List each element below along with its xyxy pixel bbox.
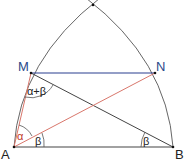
label-m: M [18,59,29,74]
label-b: B [175,147,184,162]
label-beta-a: β [35,135,41,147]
geometry-diagram: A B M N α β β α+β [0,0,184,162]
segment-mb [31,73,173,147]
point-m [30,72,33,75]
point-a [13,146,16,149]
label-alpha-plus-beta: α+β [27,85,46,97]
point-b [172,146,175,149]
angle-arc-beta-a [42,133,44,147]
label-alpha: α [17,130,24,142]
point-apex [92,4,95,7]
label-a: A [1,147,10,162]
label-beta-b: β [143,135,149,147]
label-n: N [156,59,165,74]
